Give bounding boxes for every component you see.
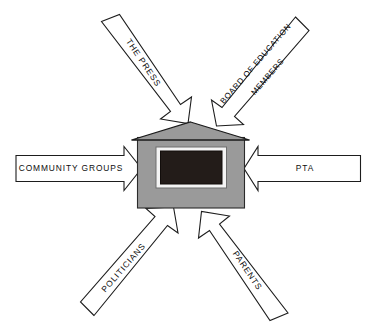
arrow-community-groups[interactable]: COMMUNITY GROUPS: [16, 147, 142, 191]
arrow-board-of-education-members-shape: [212, 17, 310, 126]
arrow-politicians-label: POLITICIANS: [99, 241, 147, 294]
arrow-parents[interactable]: PARENTS: [199, 212, 289, 321]
arrow-politicians[interactable]: POLITICIANS: [81, 207, 179, 316]
school-chalkboard-face: [161, 151, 223, 184]
arrow-board-of-education-members[interactable]: BOARD OF EDUCATION MEMBERS: [212, 17, 310, 126]
arrow-pta[interactable]: PTA: [244, 147, 361, 191]
diagram-canvas: THE PRESS BOARD OF EDUCATION MEMBERS COM…: [0, 0, 377, 334]
arrow-pta-label: PTA: [296, 163, 314, 173]
arrow-community-groups-label: COMMUNITY GROUPS: [19, 163, 124, 173]
arrow-the-press-label: THE PRESS: [124, 37, 163, 89]
arrow-the-press[interactable]: THE PRESS: [102, 15, 192, 124]
stakeholder-pressure-diagram: THE PRESS BOARD OF EDUCATION MEMBERS COM…: [0, 0, 377, 334]
school-building[interactable]: [132, 122, 250, 208]
